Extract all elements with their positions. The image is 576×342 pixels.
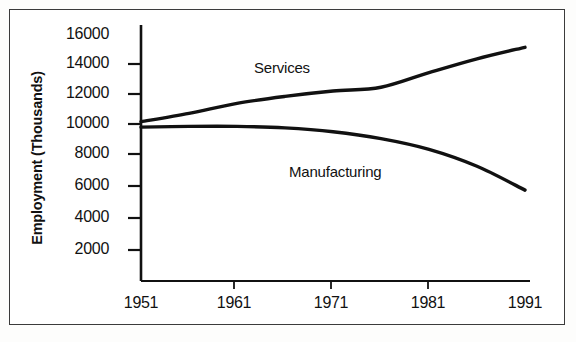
series-line-manufacturing (141, 126, 525, 190)
series-label-services: Services (254, 59, 310, 76)
chart-figure: Employment (Thousands) 20004000600080001… (0, 0, 576, 342)
series-line-services (141, 47, 525, 121)
x-axis-ticks (234, 281, 428, 289)
plot-area (0, 0, 576, 342)
series-label-manufacturing: Manufacturing (289, 163, 381, 180)
y-axis-ticks (128, 64, 141, 250)
axis-lines (141, 25, 530, 281)
